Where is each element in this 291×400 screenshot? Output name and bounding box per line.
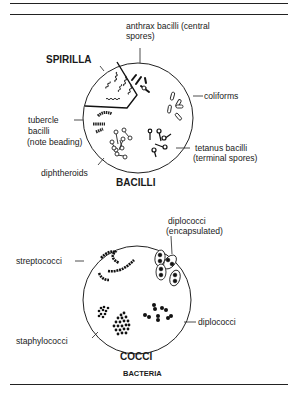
label-coliforms: coliforms [204,91,238,101]
bacilli-circle [83,62,193,173]
label-tubercle-bacilli: bacilli [28,126,50,136]
label-cocci-title: COCCI [120,352,152,362]
label-streptococci: streptococci [16,256,62,266]
label-anthrax-bacilli-cont: spores) [126,31,155,41]
label-staphylococci: staphylococci [16,336,68,346]
label-tubercle: tubercle [28,115,59,125]
label-diphtheroids: diphtheroids [41,168,88,178]
label-diplococci: diplococci [198,317,236,327]
figure-caption: BACTERIA [123,369,162,379]
label-tetanus: tetanus bacilli [195,143,247,153]
label-diplococci-encapsulated-note: (encapsulated) [166,226,223,236]
label-spirilla: SPIRILLA [46,55,92,65]
label-tubercle-note: (note beading) [27,137,82,147]
label-bacilli-title: BACILLI [116,178,155,188]
label-anthrax-bacilli: anthrax bacilli (central [126,21,210,31]
label-diplococci-encapsulated: diplococci [168,216,206,226]
label-tetanus-spores: (terminal spores) [193,153,257,163]
